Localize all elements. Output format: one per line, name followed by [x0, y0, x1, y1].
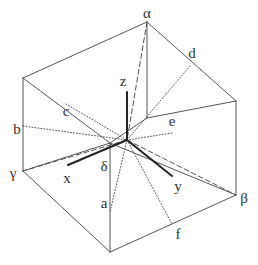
label-a: a — [101, 195, 108, 211]
label-alpha: α — [143, 5, 151, 21]
label-gamma: γ — [9, 165, 17, 181]
axis-y — [127, 140, 172, 176]
dotted-line — [66, 104, 127, 140]
box-edge — [110, 118, 147, 143]
label-x: x — [63, 170, 71, 186]
box-edge — [110, 143, 236, 195]
label-delta: δ — [100, 158, 107, 174]
box-edge — [110, 195, 236, 252]
label-e: e — [169, 113, 176, 129]
dotted-line — [127, 133, 172, 140]
box-edge — [147, 101, 236, 118]
label-f: f — [176, 226, 181, 242]
dotted-line — [23, 126, 127, 140]
cube-diagram: αβγδabcdefxyz — [0, 0, 258, 265]
label-b: b — [13, 121, 21, 137]
box-edge — [23, 22, 147, 78]
dashed-line — [23, 140, 127, 171]
label-beta: β — [240, 190, 248, 206]
box-edge — [23, 143, 110, 171]
dashed-edges — [23, 22, 236, 195]
label-c: c — [63, 103, 70, 119]
label-y: y — [174, 178, 182, 194]
point-labels: αβγδabcdefxyz — [9, 5, 248, 242]
dotted-line — [127, 66, 190, 140]
dotted-line — [110, 140, 127, 212]
box-edge — [147, 22, 236, 101]
dashed-line — [127, 22, 147, 140]
label-d: d — [188, 45, 196, 61]
label-z: z — [120, 73, 127, 89]
axis-x — [68, 140, 127, 165]
